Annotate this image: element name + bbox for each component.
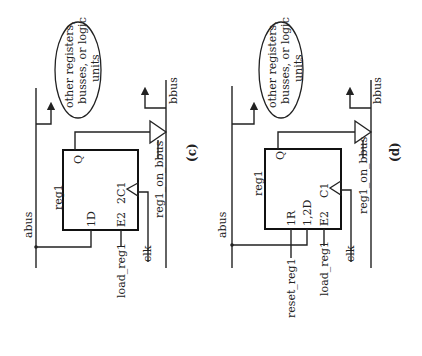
q-output-wire [75,132,150,150]
bbus-label: bbus [371,77,384,104]
tristate-signal-label: reg1_on_bbus [153,140,166,218]
caption-d: (d) [388,142,402,162]
abus-to-d-wire [36,230,91,247]
abus-to-d-wire [232,229,307,245]
abus-branch-arrow [36,106,51,124]
ellipse-line-2: busses, or logic [279,17,292,104]
e2-pin-label: E2 [318,211,331,226]
d-pin-label: 1D [85,211,98,227]
reg1-label: reg1 [252,170,265,196]
clock-triangle-icon [127,183,138,196]
reg1-label: reg1 [52,184,65,210]
tristate-signal-label: reg1_on_bbus [357,136,370,214]
bbus-branch-arrow [350,91,371,108]
tristate-buffer-icon [150,121,166,143]
q-pin-label: Q [72,155,85,164]
q-output-wire [278,132,355,149]
bbus-branch-arrow [145,91,166,108]
clk-label: clk [344,245,357,262]
abus-label: abus [22,211,35,238]
bbus-label: bbus [167,77,180,104]
diagram-d: abus other registers, busses, or logic u… [216,17,402,318]
q-pin-label: Q [274,151,287,160]
ellipse-line-2: busses, or logic [76,17,89,104]
abus-branch-arrow [232,106,254,124]
load-signal-label: load_reg1 [318,241,331,296]
ellipse-line-3: units [89,54,102,82]
clock-pin-label: C1 [318,183,331,198]
reset-pin-label: 1R [285,210,298,226]
abus-label: abus [216,211,229,238]
ellipse-line-1: other registers, [63,21,76,108]
junction-dot [230,243,234,247]
ellipse-line-3: units [292,54,305,82]
clk-label: clk [141,245,154,262]
junction-dot [34,245,38,249]
load-signal-label: load_reg1 [115,243,128,298]
reset-signal-label: reset_reg1 [285,258,298,318]
diagram-c: abus other registers, busses, or logic u… [22,17,199,298]
clock-pin-label: 2C1 [115,182,128,204]
e2-pin-label: E2 [115,212,128,227]
register-bus-diagrams: abus other registers, busses, or logic u… [0,0,422,356]
ellipse-line-1: other registers, [266,21,279,108]
d-pin-label: 1,2D [301,200,314,226]
clock-triangle-icon [330,181,341,195]
caption-c: (c) [185,143,199,162]
